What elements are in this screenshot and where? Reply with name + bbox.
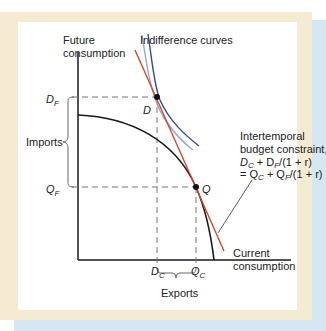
imports-brace: [63, 97, 74, 187]
x-axis-label-line2: consumption: [233, 260, 295, 272]
budget-label-line1: Intertemporal: [240, 130, 305, 142]
budget-equation-line2: = QC + QF/(1 + r): [240, 168, 323, 182]
exports-label: Exports: [161, 287, 199, 299]
indifference-curve-light: [142, 35, 193, 150]
y-axis-label-line2: consumption: [63, 47, 125, 59]
tick-DC: DC: [151, 265, 165, 280]
intertemporal-trade-diagram: Future consumption Indifference curves C…: [0, 0, 326, 331]
tick-QF: QF: [46, 183, 61, 198]
budget-leader-line: [218, 180, 252, 233]
budget-constraint-line: [135, 50, 224, 251]
budget-label-line2: budget constraint,: [240, 143, 326, 155]
y-axis-label-line1: Future: [63, 34, 95, 46]
indifference-curve-dark: [148, 34, 199, 146]
point-Q-label: Q: [202, 183, 211, 195]
tick-QC: QC: [191, 265, 206, 280]
point-D-marker: [154, 94, 160, 100]
tick-DF: DF: [46, 93, 60, 108]
imports-label: Imports: [26, 136, 63, 148]
point-Q-marker: [193, 184, 199, 190]
indifference-curves-label: Indifference curves: [140, 34, 233, 46]
point-D-label: D: [143, 104, 151, 116]
x-axis-label-line1: Current: [233, 247, 270, 259]
